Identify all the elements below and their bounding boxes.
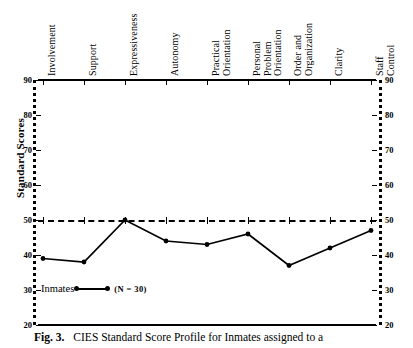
data-point	[328, 246, 333, 251]
data-point	[123, 218, 128, 223]
legend: Inmates (N = 30)	[41, 283, 147, 294]
figure-number: Fig. 3.	[34, 331, 64, 343]
data-point	[369, 228, 374, 233]
data-series-layer	[0, 0, 413, 348]
figure-container: Standard Scores InvolvementSupportExpres…	[0, 0, 413, 348]
figure-caption: Fig. 3.CIES Standard Score Profile for I…	[34, 330, 413, 344]
data-point	[164, 239, 169, 244]
data-point	[41, 256, 46, 261]
inmates-data-points	[41, 218, 374, 268]
legend-series-label: Inmates	[41, 283, 74, 294]
data-point	[82, 260, 87, 265]
legend-n-label: (N = 30)	[114, 284, 147, 294]
data-point	[246, 232, 251, 237]
legend-line-marker	[75, 285, 109, 293]
data-point	[205, 242, 210, 247]
figure-caption-text: CIES Standard Score Profile for Inmates …	[73, 331, 323, 343]
data-point	[287, 263, 292, 268]
